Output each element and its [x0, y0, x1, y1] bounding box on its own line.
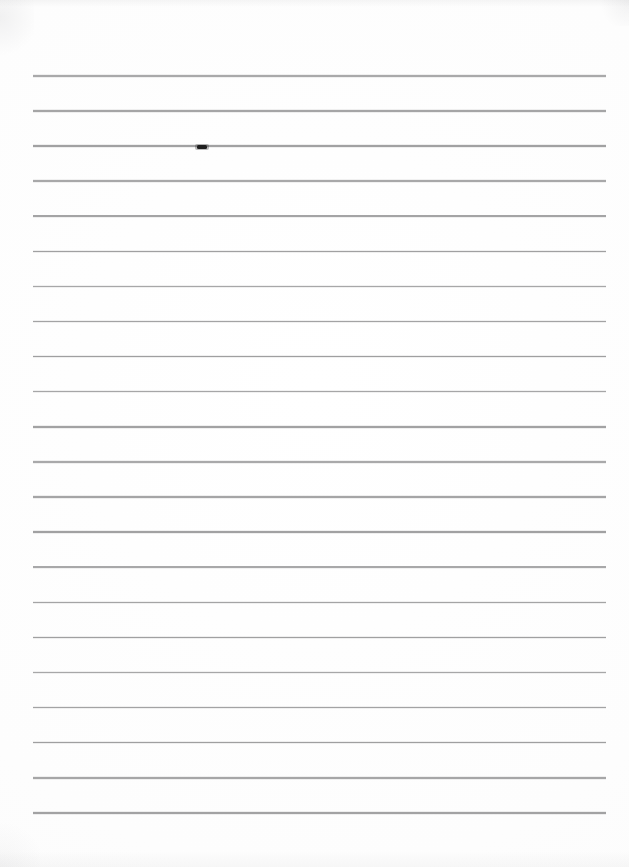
rule-line	[33, 286, 606, 288]
rule-line	[33, 531, 606, 533]
rule-line	[33, 812, 606, 814]
rule-line	[33, 496, 606, 498]
rule-line	[33, 180, 606, 182]
ruled-lines-group	[0, 0, 629, 867]
rule-line	[33, 637, 606, 639]
rule-line	[33, 391, 606, 393]
rule-line	[33, 602, 606, 604]
ink-smudge-mark	[197, 145, 207, 149]
scanned-page	[0, 0, 629, 867]
rule-line	[33, 110, 606, 112]
rule-line	[33, 426, 606, 428]
rule-line	[33, 461, 606, 463]
rule-line	[33, 672, 606, 674]
rule-line	[33, 251, 606, 253]
rule-line	[33, 707, 606, 709]
rule-line	[33, 742, 606, 744]
rule-line	[33, 75, 606, 77]
rule-line	[33, 566, 606, 568]
rule-line	[33, 356, 606, 358]
rule-line	[33, 777, 606, 779]
rule-line	[33, 321, 606, 323]
rule-line	[33, 145, 606, 147]
rule-line	[33, 215, 606, 217]
